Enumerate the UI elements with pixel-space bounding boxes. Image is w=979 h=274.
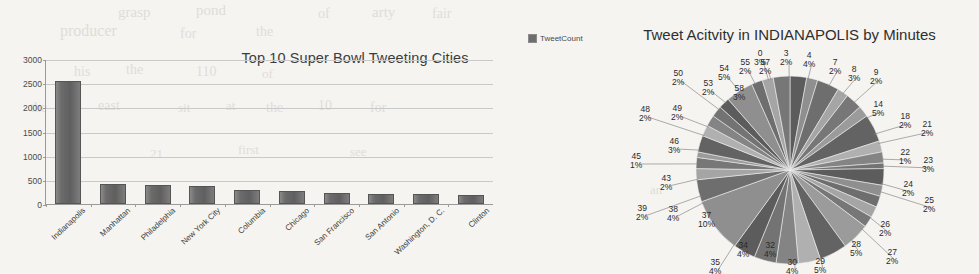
pie-chart-svg xyxy=(695,75,885,265)
pie-label-55: 552% xyxy=(739,58,751,76)
x-axis-label: Washington, D. C. xyxy=(393,206,446,257)
pie-label-percent: 4% xyxy=(667,214,679,223)
bar-slot xyxy=(448,60,493,204)
pie-label-percent: 2% xyxy=(660,183,672,192)
pie-label-57: 572% xyxy=(759,58,771,76)
pie-label-49: 492% xyxy=(671,104,683,122)
pie-label-percent: 2% xyxy=(902,189,914,198)
bar-washington-d-c[interactable] xyxy=(413,194,439,204)
pie-label-percent: 2% xyxy=(923,205,935,214)
pie-label-percent: 4% xyxy=(764,250,776,259)
pie-chart-plot-area xyxy=(695,75,885,265)
pie-label-37: 3710% xyxy=(698,211,715,229)
bar-slot xyxy=(180,60,225,204)
pie-label-percent: 4% xyxy=(803,60,815,69)
pie-label-32: 324% xyxy=(764,241,776,259)
x-axis-label: San Francisco xyxy=(313,206,357,247)
scanned-page: TweetCount Top 10 Super Bowl Tweeting Ci… xyxy=(0,0,979,274)
pie-label-34: 344% xyxy=(737,241,749,259)
pie-label-percent: 2% xyxy=(671,113,683,122)
pie-label-30: 304% xyxy=(786,258,798,274)
pie-label-24: 242% xyxy=(902,180,914,198)
pie-label-54: 545% xyxy=(718,64,730,82)
pie-label-percent: 2% xyxy=(899,121,911,130)
bar-columbia[interactable] xyxy=(234,190,260,204)
y-axis-tick-label: 1000 xyxy=(23,152,42,162)
bar-san-antonio[interactable] xyxy=(368,194,394,204)
pie-label-percent: 2% xyxy=(829,67,841,76)
pie-label-percent: 4% xyxy=(709,267,721,274)
pie-label-percent: 2% xyxy=(636,213,648,222)
bar-chicago[interactable] xyxy=(279,191,305,204)
x-axis-label: Manhattan xyxy=(99,206,133,238)
y-axis-tick-label: 1500 xyxy=(23,128,42,138)
bar-indianapolis[interactable] xyxy=(55,81,81,204)
x-axis-label: San Antonio xyxy=(363,206,401,242)
pie-chart-title: Tweet Acitvity in INDIANAPOLIS by Minute… xyxy=(600,26,979,43)
bar-san-francisco[interactable] xyxy=(324,193,350,204)
pie-label-4: 44% xyxy=(803,51,815,69)
y-axis-tick-label: 2000 xyxy=(23,103,42,113)
bar-chart-plot-area: 050010001500200025003000 xyxy=(45,60,493,205)
bar-slot xyxy=(359,60,404,204)
pie-label-8: 83% xyxy=(848,65,860,83)
bar-manhattan[interactable] xyxy=(100,184,126,204)
pie-label-26: 262% xyxy=(879,220,891,238)
pie-label-percent: 10% xyxy=(698,220,715,229)
pie-label-percent: 2% xyxy=(739,67,751,76)
pie-label-18: 182% xyxy=(899,112,911,130)
pie-label-percent: 2% xyxy=(879,229,891,238)
pie-label-22: 221% xyxy=(899,148,911,166)
pie-label-percent: 3% xyxy=(848,74,860,83)
x-axis-label: Indianapolis xyxy=(50,206,87,242)
pie-label-percent: 2% xyxy=(639,114,651,123)
pie-label-percent: 5% xyxy=(814,266,826,274)
bar-slot xyxy=(314,60,359,204)
pie-label-7: 72% xyxy=(829,58,841,76)
x-axis-label: Columbia xyxy=(236,206,267,236)
y-axis-tick-label: 500 xyxy=(28,176,42,186)
bar-chart-bars xyxy=(46,60,493,204)
bar-new-york-city[interactable] xyxy=(189,186,215,204)
pie-label-percent: 5% xyxy=(718,73,730,82)
pie-label-14: 145% xyxy=(872,100,884,118)
pie-label-38: 384% xyxy=(667,205,679,223)
bar-chart: TweetCount Top 10 Super Bowl Tweeting Ci… xyxy=(0,28,600,274)
pie-label-43: 432% xyxy=(660,174,672,192)
pie-label-percent: 3% xyxy=(668,146,680,155)
pie-label-50: 502% xyxy=(672,69,684,87)
x-axis-label: Philadelphia xyxy=(139,206,177,242)
bar-slot xyxy=(270,60,315,204)
pie-label-percent: 1% xyxy=(899,157,911,166)
pie-label-35: 354% xyxy=(709,258,721,274)
pie-label-percent: 4% xyxy=(737,250,749,259)
x-axis-label: Clinton xyxy=(466,206,490,230)
x-axis-label: New York City xyxy=(179,206,222,247)
pie-label-percent: 2% xyxy=(870,77,882,86)
pie-label-percent: 5% xyxy=(872,109,884,118)
legend-swatch-tweetcount xyxy=(528,34,537,43)
pie-label-53: 532% xyxy=(702,79,714,97)
legend-label-tweetcount: TweetCount xyxy=(540,34,583,43)
pie-label-percent: 2% xyxy=(780,58,792,67)
pie-label-45: 451% xyxy=(630,152,642,170)
pie-label-21: 212% xyxy=(921,120,933,138)
pie-label-28: 285% xyxy=(850,240,862,258)
bar-chart-legend: TweetCount xyxy=(528,34,583,43)
pie-label-46: 463% xyxy=(668,137,680,155)
bar-chart-x-axis-labels: IndianapolisManhattanPhiladelphiaNew Yor… xyxy=(45,206,493,274)
bar-clinton[interactable] xyxy=(458,195,484,204)
bar-slot xyxy=(91,60,136,204)
pie-label-percent: 2% xyxy=(759,67,771,76)
x-axis-label: Chicago xyxy=(284,206,312,233)
bar-philadelphia[interactable] xyxy=(145,185,171,204)
pie-label-25: 252% xyxy=(923,196,935,214)
pie-label-percent: 2% xyxy=(886,257,898,266)
y-axis-tick-label: 2500 xyxy=(23,79,42,89)
y-axis-tick-label: 0 xyxy=(37,200,42,210)
pie-label-percent: 3% xyxy=(733,93,745,102)
pie-label-percent: 2% xyxy=(672,78,684,87)
pie-chart: Tweet Acitvity in INDIANAPOLIS by Minute… xyxy=(600,0,979,274)
pie-label-percent: 5% xyxy=(850,249,862,258)
pie-label-percent: 4% xyxy=(786,267,798,274)
